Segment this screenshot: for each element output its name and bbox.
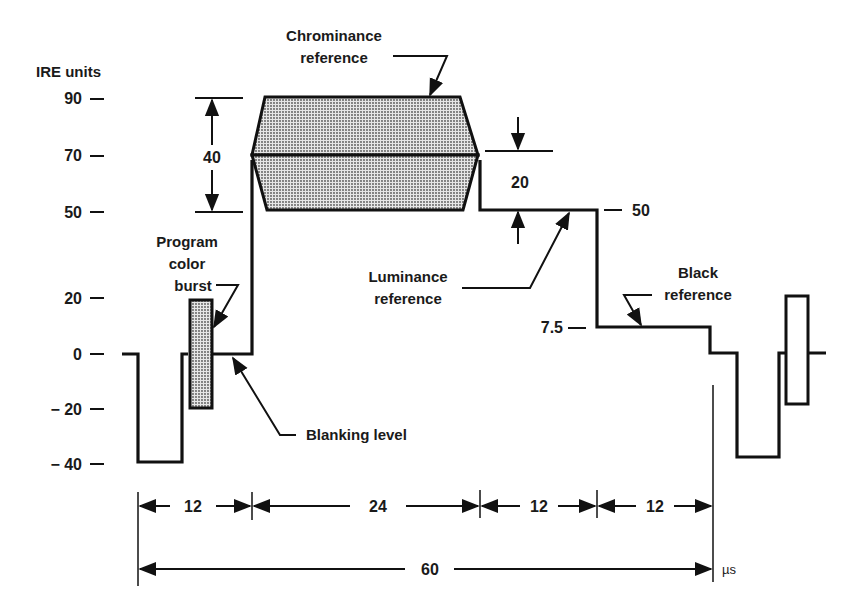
burst-leader	[214, 285, 238, 327]
tick-0: 0	[73, 346, 82, 363]
tick-90: 90	[64, 90, 82, 107]
burst-label-1: Program	[156, 233, 218, 250]
luminance-label-1: Luminance	[368, 268, 447, 285]
luminance-leader	[462, 213, 569, 288]
dim-40-label: 40	[203, 149, 221, 166]
program-color-burst	[190, 300, 212, 408]
blanking-label: Blanking level	[306, 426, 407, 443]
tick-50: 50	[64, 204, 82, 221]
dimension-40: 40	[195, 98, 243, 212]
tick-neg20: − 20	[50, 401, 82, 418]
dimension-20: 20	[485, 117, 553, 244]
waveform-diagram: IRE units 90 70 50 20 0 − 20 − 40 40 20	[0, 0, 861, 616]
chrominance-label-2: reference	[300, 49, 368, 66]
chrominance-label-1: Chrominance	[286, 27, 382, 44]
chrominance-lower-block	[252, 155, 478, 210]
timing-dimensions: 12 24 12 12 60 µs	[138, 385, 736, 586]
black-label-1: Black	[678, 264, 719, 281]
segment-2-label: 24	[369, 498, 387, 515]
time-unit-label: µs	[722, 562, 736, 577]
blanking-leader	[233, 358, 296, 435]
chrominance-leader	[393, 56, 447, 95]
tick-20: 20	[64, 290, 82, 307]
next-color-burst	[786, 296, 808, 404]
total-time-label: 60	[421, 561, 439, 578]
black-leader	[624, 295, 652, 325]
segment-4-label: 12	[646, 498, 664, 515]
waveform-line	[122, 160, 826, 462]
y-axis-ticks: 90 70 50 20 0 − 20 − 40	[50, 90, 104, 473]
black-label-2: reference	[664, 286, 732, 303]
tick-neg40: − 40	[50, 456, 82, 473]
segment-1-label: 12	[184, 498, 202, 515]
burst-label-2: color	[169, 255, 206, 272]
segment-3-label: 12	[530, 498, 548, 515]
burst-label-3: burst	[174, 277, 212, 294]
tick-70: 70	[64, 147, 82, 164]
tick-right-50: 50	[632, 202, 650, 219]
chrominance-upper-block	[252, 97, 478, 155]
axis-title: IRE units	[36, 63, 101, 80]
dim-20-label: 20	[511, 174, 529, 191]
diagram-stage: IRE units 90 70 50 20 0 − 20 − 40 40 20	[0, 0, 861, 616]
luminance-label-2: reference	[374, 290, 442, 307]
tick-right-7-5: 7.5	[541, 319, 563, 336]
